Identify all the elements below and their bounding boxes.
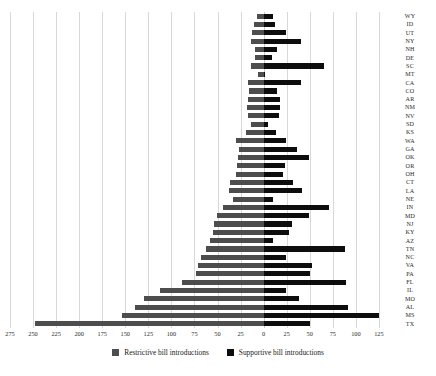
- bar-row: [10, 12, 390, 20]
- bar-restrictive: [252, 30, 264, 35]
- y-axis-label-az: AZ: [392, 237, 428, 245]
- bar-supportive: [264, 55, 272, 60]
- bar-row: [10, 286, 390, 294]
- bar-row: [10, 245, 390, 253]
- legend-item-restrictive: Restrictive bill introductions: [112, 348, 209, 357]
- bar-restrictive: [249, 88, 264, 93]
- legend-label: Supportive bill introductions: [239, 348, 324, 357]
- bar-restrictive: [255, 55, 263, 60]
- y-axis-label-nc: NC: [392, 253, 428, 261]
- bar-row: [10, 187, 390, 195]
- y-axis-label-ga: GA: [392, 145, 428, 153]
- bar-supportive: [264, 172, 283, 177]
- x-axis-tick: 0: [262, 330, 265, 337]
- bar-row: [10, 120, 390, 128]
- bar-row: [10, 278, 390, 286]
- y-axis-label-al: AL: [392, 303, 428, 311]
- bar-restrictive: [251, 122, 264, 127]
- bar-row: [10, 170, 390, 178]
- bar-supportive: [264, 205, 329, 210]
- bar-supportive: [264, 321, 310, 326]
- bar-row: [10, 103, 390, 111]
- bar-supportive: [264, 197, 273, 202]
- y-axis-label-in: IN: [392, 203, 428, 211]
- bar-restrictive: [247, 105, 264, 110]
- y-axis-label-pa: PA: [392, 270, 428, 278]
- bar-row: [10, 79, 390, 87]
- bar-restrictive: [144, 296, 264, 301]
- x-axis-tick: 125: [144, 330, 153, 337]
- x-axis-tick: 100: [351, 330, 360, 337]
- x-axis-tick: 50: [214, 330, 220, 337]
- legend-item-supportive: Supportive bill introductions: [227, 348, 324, 357]
- bar-restrictive: [230, 180, 263, 185]
- bar-restrictive: [236, 138, 264, 143]
- bar-row: [10, 162, 390, 170]
- bar-supportive: [264, 296, 299, 301]
- x-axis-tick-labels: 2752502252001751501251007550250255075100…: [10, 328, 390, 342]
- bar-restrictive: [239, 147, 264, 152]
- bar-supportive: [264, 22, 275, 27]
- bar-supportive: [264, 138, 286, 143]
- bar-supportive: [264, 238, 273, 243]
- bar-supportive: [264, 313, 379, 318]
- x-axis-tick: 150: [121, 330, 130, 337]
- y-axis-label-nv: NV: [392, 112, 428, 120]
- x-axis-tick: 275: [5, 330, 14, 337]
- bar-row: [10, 45, 390, 53]
- y-axis-label-la: LA: [392, 187, 428, 195]
- bar-row: [10, 87, 390, 95]
- bar-restrictive: [223, 205, 264, 210]
- bar-row: [10, 29, 390, 37]
- bar-supportive: [264, 230, 289, 235]
- bar-row: [10, 62, 390, 70]
- bar-supportive: [264, 47, 277, 52]
- bar-restrictive: [213, 230, 264, 235]
- x-axis-tick: 50: [307, 330, 313, 337]
- y-axis-label-tx: TX: [392, 320, 428, 328]
- bar-restrictive: [238, 155, 264, 160]
- y-axis-label-or: OR: [392, 162, 428, 170]
- bar-row: [10, 228, 390, 236]
- bar-restrictive: [248, 113, 264, 118]
- bar-supportive: [264, 155, 309, 160]
- y-axis-label-nm: NM: [392, 103, 428, 111]
- diverging-bar-chart: WYIDUTNYNHDESCMTCACOARNMNVSDKSWAGAOKOROH…: [0, 0, 436, 376]
- y-axis-category-labels: WYIDUTNYNHDESCMTCACOARNMNVSDKSWAGAOKOROH…: [392, 12, 436, 328]
- square-swatch-icon: [112, 349, 119, 356]
- bar-row: [10, 70, 390, 78]
- bar-row: [10, 295, 390, 303]
- bar-rows: [10, 12, 390, 328]
- y-axis-label-tn: TN: [392, 245, 428, 253]
- bar-restrictive: [254, 22, 263, 27]
- bar-row: [10, 212, 390, 220]
- x-axis-tick: 175: [97, 330, 106, 337]
- bar-supportive: [264, 188, 303, 193]
- bar-restrictive: [206, 246, 264, 251]
- bar-supportive: [264, 130, 276, 135]
- y-axis-label-il: IL: [392, 286, 428, 294]
- bar-supportive: [264, 263, 312, 268]
- x-axis-tick: 25: [284, 330, 290, 337]
- y-axis-label-de: DE: [392, 54, 428, 62]
- bar-supportive: [264, 14, 273, 19]
- plot-area: [10, 12, 390, 328]
- bar-restrictive: [248, 97, 264, 102]
- bar-supportive: [264, 180, 294, 185]
- x-axis-tick: 200: [74, 330, 83, 337]
- bar-supportive: [264, 39, 301, 44]
- y-axis-label-wa: WA: [392, 137, 428, 145]
- bar-supportive: [264, 271, 310, 276]
- bar-row: [10, 20, 390, 28]
- bar-row: [10, 311, 390, 319]
- y-axis-label-ok: OK: [392, 153, 428, 161]
- bar-supportive: [264, 80, 302, 85]
- y-axis-label-sd: SD: [392, 120, 428, 128]
- bar-restrictive: [237, 163, 264, 168]
- y-axis-label-ny: NY: [392, 37, 428, 45]
- bar-supportive: [264, 280, 346, 285]
- bar-supportive: [264, 246, 345, 251]
- y-axis-label-id: ID: [392, 20, 428, 28]
- bar-restrictive: [201, 255, 264, 260]
- bar-row: [10, 145, 390, 153]
